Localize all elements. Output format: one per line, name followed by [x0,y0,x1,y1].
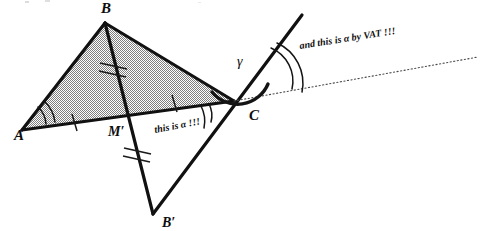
diagram-canvas: A B C M′ B′ γ this is α !!! and this is … [0,0,482,231]
vertex-label-b: B [100,0,111,16]
vertex-label-c: C [249,107,260,123]
annotation-alpha-by-vat: and this is α by VAT !!! [299,25,397,51]
geometry-diagram: A B C M′ B′ γ this is α !!! and this is … [0,0,482,231]
scan-artifacts [25,0,201,3]
annotation-alpha-at-c: this is α !!! [153,115,201,135]
angle-mark-c-alpha [201,104,212,128]
dotted-extension-line [234,57,478,101]
vertex-label-b-prime: B′ [161,215,175,230]
vertex-label-m-prime: M′ [107,124,124,139]
angle-mark-vat [271,43,303,92]
angle-label-gamma: γ [237,54,243,69]
vertex-label-a: A [13,127,24,143]
